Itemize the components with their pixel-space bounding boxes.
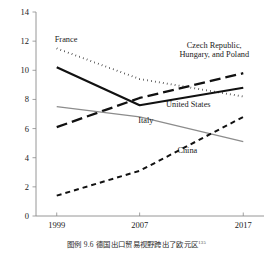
y-axis: 02468101214 [21, 7, 37, 221]
y-axis-tick-labels: 02468101214 [21, 7, 30, 221]
line-chart-figure: 02468101214 199920072017 FranceUnited St… [0, 0, 273, 236]
series-label-france: France [55, 35, 78, 44]
series-label-china: China [177, 146, 197, 155]
y-tick-label: 10 [21, 65, 30, 75]
y-tick-label: 4 [25, 153, 30, 163]
x-tick-label: 2017 [235, 220, 252, 230]
caption-superscript: 135 [198, 240, 206, 245]
y-tick-label: 8 [25, 94, 29, 104]
y-tick-label: 2 [25, 182, 29, 192]
x-axis: 199920072017 [36, 213, 264, 231]
chart-canvas: 02468101214 199920072017 FranceUnited St… [0, 0, 273, 236]
series-line-united-states [57, 67, 244, 105]
series-label-united-states: United States [166, 100, 210, 109]
figure-page: 02468101214 199920072017 FranceUnited St… [0, 0, 273, 261]
series-line-china [57, 117, 244, 196]
caption-text: 图例 9.6 德国出口贸易视野跨出了欧元区 [67, 240, 198, 249]
y-tick-label: 14 [21, 7, 30, 17]
x-axis-ticks [57, 213, 244, 217]
x-tick-label: 1999 [48, 220, 65, 230]
y-tick-label: 12 [21, 36, 30, 46]
x-axis-tick-labels: 199920072017 [48, 220, 252, 230]
y-axis-ticks [33, 12, 37, 216]
y-tick-label: 0 [25, 211, 29, 221]
y-tick-label: 6 [25, 124, 29, 134]
figure-caption: 图例 9.6 德国出口贸易视野跨出了欧元区135 [0, 238, 273, 249]
series-label-czech-republic-hungary-and-poland: Czech Republic,Hungary, and Poland [179, 41, 250, 60]
x-tick-label: 2007 [131, 220, 148, 230]
series-label-italy: Italy [138, 116, 154, 125]
